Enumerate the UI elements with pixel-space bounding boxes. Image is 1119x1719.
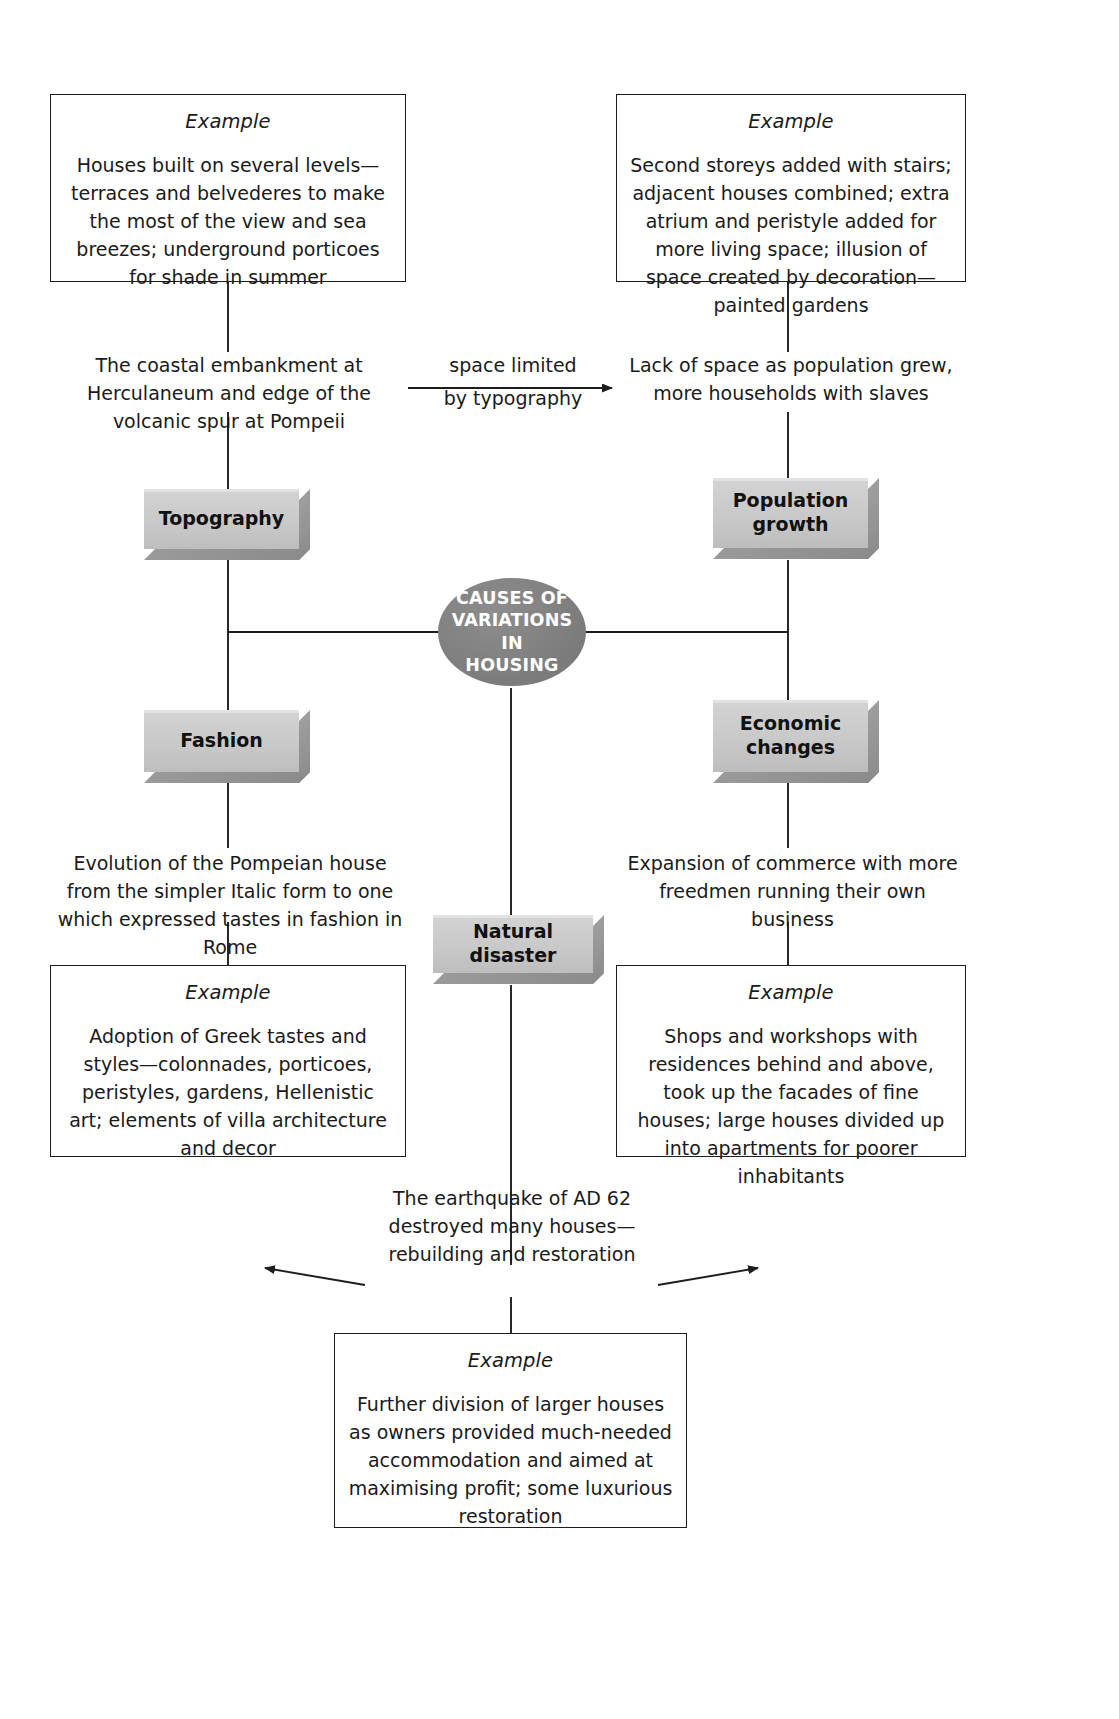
box-highlight bbox=[144, 710, 299, 713]
example-box-topography: Example Houses built on several levels—t… bbox=[50, 94, 406, 282]
example-body: Further division of larger houses as own… bbox=[335, 1391, 686, 1531]
cause-text-economic-changes: Expansion of commerce with more freedmen… bbox=[620, 850, 965, 934]
connector-label-line1: space limited bbox=[418, 352, 608, 380]
example-title: Example bbox=[185, 109, 270, 134]
box-highlight bbox=[144, 489, 299, 492]
example-body: Adoption of Greek tastes and styles—colo… bbox=[51, 1023, 405, 1163]
category-label: Population growth bbox=[727, 489, 855, 537]
example-title: Example bbox=[748, 980, 833, 1005]
box-highlight bbox=[713, 478, 868, 481]
category-box-fashion[interactable]: Fashion bbox=[144, 710, 299, 772]
category-label: Topography bbox=[153, 507, 290, 531]
box-shadow-bottom bbox=[144, 549, 310, 560]
connector-label-line2: by typography bbox=[418, 385, 608, 413]
center-node-line1: CAUSES OF bbox=[456, 588, 568, 608]
category-box-natural-disaster[interactable]: Natural disaster bbox=[433, 915, 593, 973]
example-title: Example bbox=[748, 109, 833, 134]
box-shadow-right bbox=[868, 700, 879, 783]
cause-text-topography: The coastal embankment at Herculaneum an… bbox=[48, 352, 410, 436]
box-highlight bbox=[713, 700, 868, 703]
box-shadow-right bbox=[868, 478, 879, 559]
example-title: Example bbox=[468, 1348, 553, 1373]
example-box-population-growth: Example Second storeys added with stairs… bbox=[616, 94, 966, 282]
category-box-economic-changes[interactable]: Economic changes bbox=[713, 700, 868, 772]
example-body: Shops and workshops with residences behi… bbox=[617, 1023, 965, 1191]
category-label: Natural disaster bbox=[433, 920, 593, 968]
box-shadow-bottom bbox=[144, 772, 310, 783]
example-box-fashion: Example Adoption of Greek tastes and sty… bbox=[50, 965, 406, 1157]
category-label-line1: Economic bbox=[740, 712, 841, 734]
category-label-line2: changes bbox=[746, 736, 835, 758]
category-box-topography[interactable]: Topography bbox=[144, 489, 299, 549]
center-node-label: CAUSES OF VARIATIONS IN HOUSING bbox=[438, 587, 586, 678]
example-title: Example bbox=[185, 980, 270, 1005]
example-body: Second storeys added with stairs; adjace… bbox=[617, 152, 965, 320]
category-box-population-growth[interactable]: Population growth bbox=[713, 478, 868, 548]
cause-text-natural-disaster: The earthquake of AD 62 destroyed many h… bbox=[348, 1185, 676, 1269]
center-node-causes-of-variations-in-housing[interactable]: CAUSES OF VARIATIONS IN HOUSING bbox=[438, 578, 586, 686]
box-shadow-bottom bbox=[713, 772, 879, 783]
cause-text-population-growth: Lack of space as population grew, more h… bbox=[612, 352, 970, 408]
diagram-page: Example Houses built on several levels—t… bbox=[0, 0, 1119, 1719]
center-node-line3: HOUSING bbox=[465, 655, 558, 675]
category-label: Economic changes bbox=[734, 712, 847, 760]
category-label-line2: growth bbox=[752, 513, 828, 535]
cause-text-fashion: Evolution of the Pompeian house from the… bbox=[55, 850, 405, 962]
box-shadow-bottom bbox=[713, 548, 879, 559]
example-body: Houses built on several levels—terraces … bbox=[51, 152, 405, 292]
example-box-natural-disaster: Example Further division of larger house… bbox=[334, 1333, 687, 1528]
center-node-line2: VARIATIONS IN bbox=[452, 610, 573, 652]
example-box-economic-changes: Example Shops and workshops with residen… bbox=[616, 965, 966, 1157]
box-shadow-bottom bbox=[433, 973, 604, 984]
category-label-line1: Population bbox=[733, 489, 849, 511]
box-highlight bbox=[433, 915, 593, 918]
category-label: Fashion bbox=[174, 729, 269, 753]
